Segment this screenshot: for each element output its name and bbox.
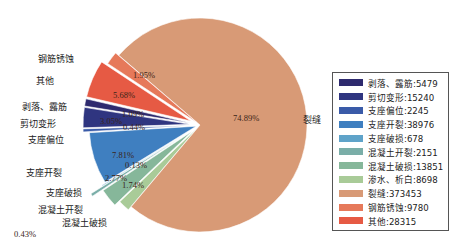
percent-label: 74.89% <box>233 113 259 123</box>
legend-item: 其他:28315 <box>339 214 448 228</box>
legend-label: 支座偏位:2245 <box>368 104 429 116</box>
legend-swatch <box>339 107 363 114</box>
percent-label: 0.13% <box>125 160 147 170</box>
legend-item: 裂缝:373453 <box>339 186 448 200</box>
legend-swatch <box>339 79 363 86</box>
category-label: 剪切变形 <box>20 118 56 129</box>
legend-swatch <box>339 135 363 142</box>
percent-label: 7.81% <box>112 150 134 160</box>
legend-item: 渗水、析白:8698 <box>339 173 448 187</box>
legend-label: 混凝土破损:13851 <box>368 160 443 172</box>
category-label: 支座破损 <box>46 187 82 198</box>
legend-swatch <box>339 93 363 100</box>
legend-swatch <box>339 204 363 211</box>
category-label: 剥落、露筋 <box>22 101 67 112</box>
legend-label: 钢筋锈蚀:9780 <box>368 201 429 213</box>
legend-swatch <box>339 162 363 169</box>
legend-label: 渗水、析白:8698 <box>368 173 438 185</box>
legend-item: 剥落、露筋:5479 <box>339 76 448 90</box>
percent-label: 3.05% <box>100 116 122 126</box>
legend-item: 钢筋锈蚀:9780 <box>339 200 448 214</box>
legend-item: 剪切变形:15240 <box>339 90 448 104</box>
legend-item: 支座破损:678 <box>339 131 448 145</box>
legend-item: 混凝土破损:13851 <box>339 159 448 173</box>
legend-label: 混凝土开裂:2151 <box>368 146 438 158</box>
category-label: 混凝土破损 <box>62 217 107 228</box>
category-label: 裂缝 <box>303 114 321 125</box>
percent-label: 0.44% <box>123 122 145 132</box>
percent-label: 0.43% <box>14 229 36 239</box>
legend-swatch <box>339 121 363 128</box>
legend-item: 支座偏位:2245 <box>339 104 448 118</box>
legend-swatch <box>339 148 363 155</box>
percent-label: 1.74% <box>122 180 144 190</box>
legend: 剥落、露筋:5479剪切变形:15240支座偏位:2245支座开裂:38976支… <box>332 72 449 231</box>
category-label: 钢筋锈蚀 <box>38 53 74 64</box>
percent-label: 5.68% <box>113 90 135 100</box>
legend-label: 其他:28315 <box>368 215 416 227</box>
legend-item: 支座开裂:38976 <box>339 117 448 131</box>
legend-swatch <box>339 190 363 197</box>
legend-label: 剥落、露筋:5479 <box>368 77 438 89</box>
legend-swatch <box>339 217 363 224</box>
pie-chart: 1.09%3.05%0.44%7.81%0.13%0.43%2.77%1.74%… <box>0 0 330 252</box>
category-label: 支座开裂 <box>26 167 62 178</box>
legend-item: 混凝土开裂:2151 <box>339 145 448 159</box>
percent-label: 1.95% <box>133 70 155 80</box>
category-label: 混凝土开裂 <box>38 204 83 215</box>
percent-label: 1.09% <box>122 109 144 119</box>
legend-label: 支座开裂:38976 <box>368 118 434 130</box>
legend-label: 剪切变形:15240 <box>368 91 434 103</box>
legend-swatch <box>339 176 363 183</box>
category-label: 其他 <box>36 75 54 86</box>
legend-label: 裂缝:373453 <box>368 187 422 199</box>
category-label: 支座偏位 <box>28 134 64 145</box>
legend-label: 支座破损:678 <box>368 132 423 144</box>
